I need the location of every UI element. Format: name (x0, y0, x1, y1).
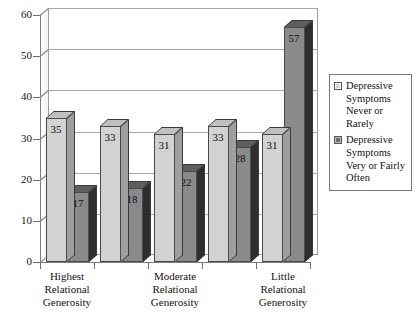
chart-legend: Depressive Symptoms Never or Rarely Depr… (329, 74, 412, 191)
bar-side (143, 181, 151, 262)
bar-chart: 0102030405060 57312833223118331735 Highe… (0, 0, 415, 314)
x-axis-tick (40, 262, 41, 269)
x-axis-category-line: Moderate (154, 270, 196, 282)
bar: 35 (46, 118, 67, 262)
x-axis-category-line: Relational (152, 283, 197, 295)
x-axis-category-label: LittleRelationalGenerosity (235, 270, 331, 310)
x-axis-category-line: Relational (44, 283, 89, 295)
bar-face (46, 118, 67, 262)
x-axis-line (40, 262, 311, 263)
x-axis-category-label: ModerateRelationalGenerosity (127, 270, 223, 310)
x-axis-tick (310, 262, 311, 269)
x-axis-category-line: Highest (50, 270, 84, 282)
x-axis-tick (94, 262, 95, 269)
dark-gray-swatch (334, 136, 342, 144)
bar-side (197, 164, 205, 262)
bar: 33 (100, 126, 121, 262)
bar-side (305, 20, 313, 262)
bar-face (208, 126, 229, 262)
x-axis-category-line: Little (271, 270, 295, 282)
bar-value-label: 31 (154, 140, 175, 151)
bar-value-label: 31 (262, 140, 283, 151)
bar-side (283, 127, 291, 262)
legend-item-label: Depressive Symptoms Never or Rarely (346, 80, 393, 130)
bar-value-label: 57 (284, 33, 305, 44)
bar-side (121, 119, 129, 262)
x-axis-tick (202, 262, 203, 269)
bar-side (175, 127, 183, 262)
x-axis-category-line: Generosity (259, 296, 307, 308)
bar-side (89, 185, 97, 262)
x-axis-category-line: Generosity (43, 296, 91, 308)
x-axis-tick (148, 262, 149, 269)
x-axis-category-line: Relational (260, 283, 305, 295)
x-axis-tick (256, 262, 257, 269)
bar: 31 (262, 134, 283, 262)
bar-face (154, 134, 175, 262)
bar-side (251, 140, 259, 262)
light-gray-swatch (334, 82, 342, 90)
bar-value-label: 33 (208, 132, 229, 143)
bar-value-label: 35 (46, 124, 67, 135)
bar: 33 (208, 126, 229, 262)
bar: 31 (154, 134, 175, 262)
x-axis-category-line: Generosity (151, 296, 199, 308)
legend-item-label: Depressive Symptoms Very or Fairly Often (346, 134, 405, 184)
bar-value-label: 33 (100, 132, 121, 143)
legend-item-never-or-rarely: Depressive Symptoms Never or Rarely (334, 80, 408, 130)
x-axis-category-label: HighestRelationalGenerosity (19, 270, 115, 310)
bar-face (100, 126, 121, 262)
bar-side (67, 111, 75, 262)
bar-side (229, 119, 237, 262)
legend-item-very-or-fairly-often: Depressive Symptoms Very or Fairly Often (334, 134, 408, 184)
bar-face (262, 134, 283, 262)
